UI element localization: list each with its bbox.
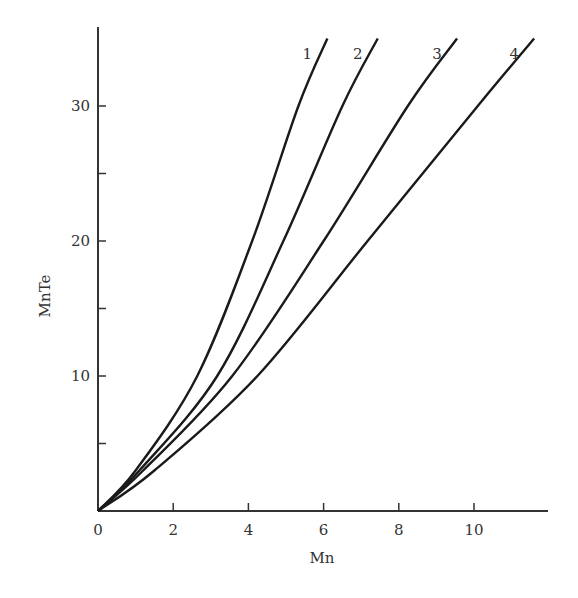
curve-label-3: 3 — [432, 45, 442, 63]
x-tick-label: 6 — [319, 521, 329, 539]
x-tick-label: 8 — [394, 521, 404, 539]
y-tick-label: 30 — [71, 97, 90, 115]
curve-label-1: 1 — [303, 45, 313, 63]
x-tick-label: 10 — [464, 521, 483, 539]
curve-4 — [98, 39, 534, 512]
x-tick-label: 2 — [168, 521, 178, 539]
curve-2 — [98, 39, 378, 512]
labels: MnMnTe1234 — [36, 45, 519, 568]
x-tick-label: 4 — [244, 521, 254, 539]
x-axis-label: Mn — [309, 549, 334, 567]
y-tick-label: 10 — [71, 367, 90, 385]
chart: 0246810102030 MnMnTe1234 — [0, 0, 578, 598]
curve-label-2: 2 — [353, 45, 363, 63]
y-axis-label: MnTe — [36, 275, 54, 318]
curves — [98, 39, 534, 512]
curve-1 — [98, 39, 327, 512]
x-tick-label: 0 — [93, 521, 103, 539]
y-tick-label: 20 — [71, 232, 90, 250]
curve-label-4: 4 — [509, 45, 519, 63]
curve-3 — [98, 39, 457, 512]
